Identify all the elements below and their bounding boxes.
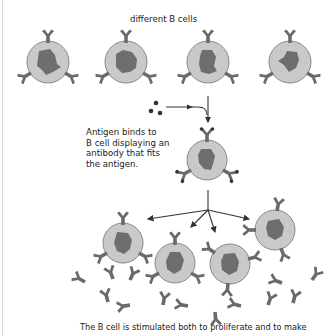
b-cell-3 [176, 30, 239, 85]
free-antibodies [70, 264, 324, 326]
binding-note-line: the antigen. [86, 159, 169, 170]
binding-arrow [166, 96, 208, 122]
clone-cell-1 [92, 212, 153, 265]
binding-note-line: Antigen binds to [86, 127, 169, 138]
proliferation-arrows [148, 190, 249, 232]
b-cell-2 [94, 30, 157, 85]
binding-note: Antigen binds to B cell displaying an an… [86, 127, 169, 169]
top-b-cells [16, 30, 321, 85]
selected-b-cell [175, 127, 240, 184]
top-caption: different B cells [130, 14, 197, 25]
binding-note-line: antibody that fits [86, 148, 169, 159]
binding-note-line: B cell displaying an [86, 138, 169, 149]
clone-cell-4 [243, 197, 296, 263]
b-cell-1 [16, 30, 79, 85]
b-cell-4 [258, 30, 321, 85]
antigen-particles [149, 101, 163, 116]
bottom-caption: The B cell is stimulated both to prolife… [80, 322, 307, 333]
clone-cell-2 [144, 232, 205, 285]
clone-cell-3 [200, 240, 262, 297]
